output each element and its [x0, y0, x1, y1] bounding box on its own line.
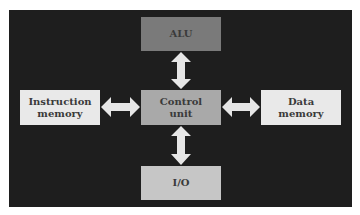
- io-block: I/O: [141, 166, 221, 200]
- alu-label: ALU: [170, 28, 193, 40]
- instruction-memory-block: Instruction memory: [20, 90, 100, 125]
- data-memory-block: Data memory: [261, 90, 341, 125]
- io-label: I/O: [172, 177, 189, 189]
- control-unit-label: Control unit: [160, 96, 202, 120]
- instruction-memory-label: Instruction memory: [28, 96, 91, 120]
- arrow-instruction-control-icon: [101, 97, 140, 117]
- arrow-alu-control-icon: [171, 52, 191, 89]
- data-memory-label: Data memory: [278, 96, 323, 120]
- alu-block: ALU: [141, 17, 221, 51]
- arrow-control-data-icon: [222, 97, 260, 117]
- control-unit-block: Control unit: [141, 90, 221, 125]
- arrow-control-io-icon: [171, 126, 191, 165]
